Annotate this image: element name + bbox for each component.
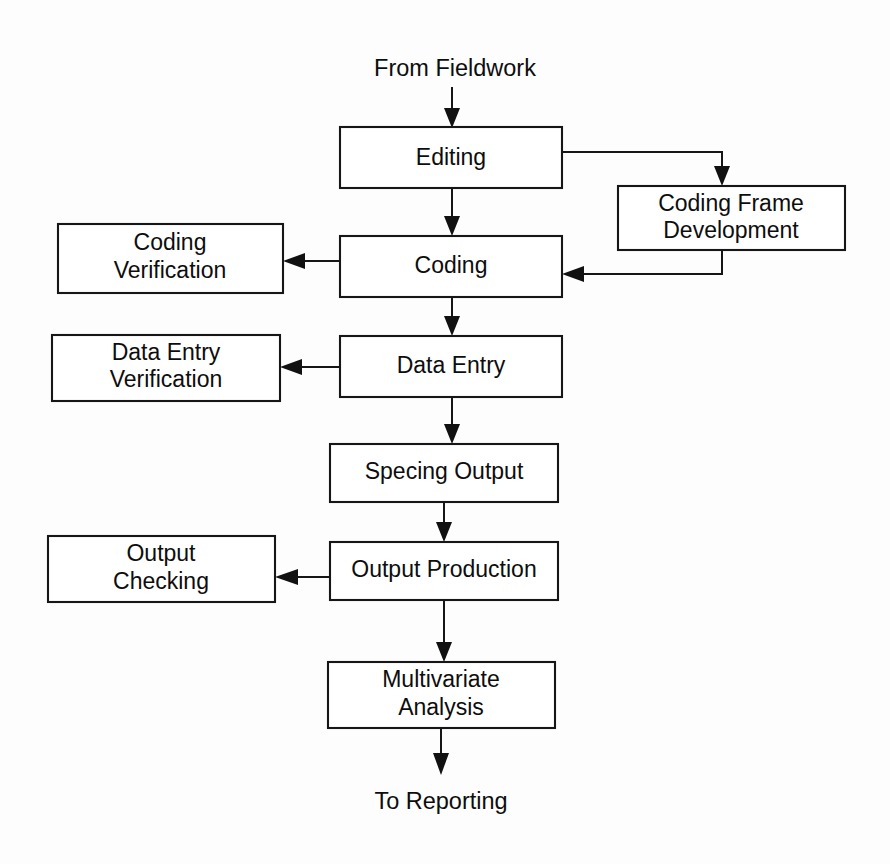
node-multivariate-analysis-label-line1: Multivariate [382, 666, 500, 692]
edge-specing-to-output-production [436, 502, 452, 542]
node-coding-label: Coding [415, 252, 488, 278]
edge-fieldwork-to-editing [444, 87, 460, 128]
edge-multivariate-to-reporting [433, 728, 449, 775]
node-output-checking-label-line1: Output [126, 540, 196, 566]
edge-editing-to-coding-frame [562, 152, 730, 186]
flowchart-svg: From Fieldwork Editing Coding Frame Deve… [0, 0, 890, 864]
node-coding-verification-label-line2: Verification [114, 257, 227, 283]
node-data-entry-verification[interactable]: Data Entry Verification [52, 335, 280, 401]
node-data-entry-verification-label-line1: Data Entry [112, 339, 221, 365]
node-output-checking[interactable]: Output Checking [48, 536, 275, 602]
edge-data-entry-to-verification [280, 359, 340, 375]
node-multivariate-analysis[interactable]: Multivariate Analysis [328, 662, 555, 728]
node-coding-frame-development-label-line2: Development [663, 217, 799, 243]
node-output-checking-label-line2: Checking [113, 568, 209, 594]
entry-label: From Fieldwork [374, 55, 536, 81]
node-data-entry-label: Data Entry [397, 352, 506, 378]
node-output-production-label: Output Production [351, 556, 536, 582]
node-coding-verification[interactable]: Coding Verification [58, 224, 283, 293]
node-editing[interactable]: Editing [340, 127, 562, 188]
edge-coding-frame-to-coding [562, 250, 722, 282]
edge-editing-to-coding [444, 188, 460, 236]
node-coding-frame-development[interactable]: Coding Frame Development [618, 186, 845, 250]
flowchart-canvas: From Fieldwork Editing Coding Frame Deve… [0, 0, 890, 864]
edge-coding-to-data-entry [444, 297, 460, 336]
edge-output-production-to-multivariate [436, 600, 452, 662]
edge-data-entry-to-specing-output [444, 397, 460, 444]
exit-label: To Reporting [374, 788, 507, 814]
node-output-production[interactable]: Output Production [330, 542, 558, 600]
edge-output-production-to-checking [275, 569, 330, 585]
edge-coding-to-coding-verification [283, 253, 340, 269]
node-coding[interactable]: Coding [340, 236, 562, 297]
node-coding-verification-label-line1: Coding [134, 229, 207, 255]
node-coding-frame-development-label-line1: Coding Frame [658, 190, 804, 216]
node-specing-output[interactable]: Specing Output [330, 444, 558, 502]
node-specing-output-label: Specing Output [365, 458, 524, 484]
node-editing-label: Editing [416, 144, 486, 170]
node-data-entry[interactable]: Data Entry [340, 336, 562, 397]
node-data-entry-verification-label-line2: Verification [110, 366, 223, 392]
node-multivariate-analysis-label-line2: Analysis [398, 694, 484, 720]
